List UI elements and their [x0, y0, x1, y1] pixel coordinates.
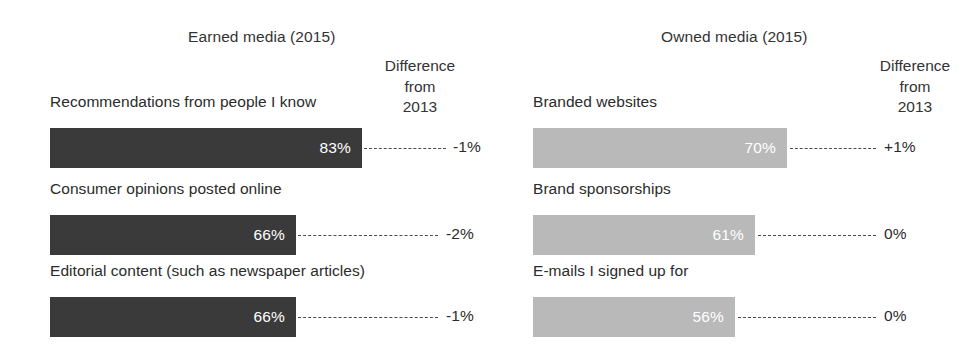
connector-line: [758, 235, 876, 236]
connector-line: [298, 317, 438, 318]
difference-value: 0%: [884, 225, 907, 243]
bar-category-label: Recommendations from people I know: [50, 93, 316, 111]
difference-value: -2%: [446, 225, 474, 243]
difference-header-owned: Difference from 2013: [855, 56, 975, 118]
bar-value-label: 56%: [692, 308, 735, 326]
bar-earned-1: 66%: [50, 215, 296, 255]
bar-owned-0: 70%: [533, 128, 787, 168]
difference-header-line-1: Difference: [855, 56, 975, 77]
panel-earned-media: Earned media (2015) Difference from 2013…: [0, 0, 489, 360]
connector-line: [790, 148, 876, 149]
difference-value: +1%: [884, 138, 916, 156]
difference-value: -1%: [453, 138, 481, 156]
panel-title-owned-media: Owned media (2015): [661, 28, 808, 46]
difference-header-line-1: Difference: [360, 56, 480, 77]
bar-value-label: 61%: [712, 226, 755, 244]
difference-value: 0%: [884, 307, 907, 325]
bar-earned-0: 83%: [50, 128, 362, 168]
bar-owned-1: 61%: [533, 215, 755, 255]
bar-category-label: Editorial content (such as newspaper art…: [50, 262, 365, 280]
difference-header-earned: Difference from 2013: [360, 56, 480, 118]
bar-value-label: 70%: [744, 139, 787, 157]
difference-value: -1%: [446, 307, 474, 325]
bar-category-label: E-mails I signed up for: [533, 262, 688, 280]
bar-value-label: 83%: [319, 139, 362, 157]
bar-value-label: 66%: [253, 308, 296, 326]
media-trust-chart: Earned media (2015) Difference from 2013…: [0, 0, 978, 360]
bar-owned-2: 56%: [533, 297, 735, 337]
difference-header-line-2: from: [855, 77, 975, 98]
bar-value-label: 66%: [253, 226, 296, 244]
bar-category-label: Consumer opinions posted online: [50, 180, 282, 198]
bar-earned-2: 66%: [50, 297, 296, 337]
bar-category-label: Branded websites: [533, 93, 657, 111]
panel-owned-media: Owned media (2015) Difference from 2013 …: [489, 0, 978, 360]
connector-line: [738, 317, 876, 318]
connector-line: [298, 235, 438, 236]
bar-category-label: Brand sponsorships: [533, 180, 671, 198]
difference-header-line-3: 2013: [360, 97, 480, 118]
difference-header-line-2: from: [360, 77, 480, 98]
difference-header-line-3: 2013: [855, 97, 975, 118]
connector-line: [364, 148, 446, 149]
panel-title-earned-media: Earned media (2015): [188, 28, 336, 46]
